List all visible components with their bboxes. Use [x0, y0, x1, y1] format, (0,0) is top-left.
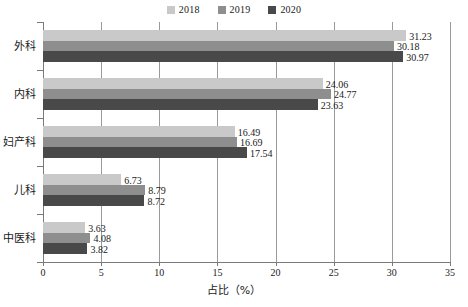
bar-value-label: 16.49	[238, 126, 261, 137]
bar-value-label: 4.08	[93, 233, 111, 244]
bar-value-label: 24.77	[334, 89, 357, 100]
bar-2018-妇产科	[43, 126, 235, 137]
x-axis-tick-label: 10	[154, 267, 164, 279]
y-axis-tick	[37, 166, 43, 167]
chart-legend: 201820192020	[0, 2, 468, 18]
bar-2018-儿科	[43, 174, 121, 185]
x-axis-tick	[276, 262, 277, 266]
bar-value-label: 6.73	[124, 174, 142, 185]
x-axis-line	[43, 262, 451, 263]
y-axis-category-label: 外科	[14, 40, 36, 53]
x-axis-tick-label: 25	[329, 267, 339, 279]
bar-2020-中医科	[43, 243, 87, 254]
y-axis-tick	[37, 214, 43, 215]
y-axis-category-label: 内科	[14, 88, 36, 101]
x-axis-tick	[334, 262, 335, 266]
bar-2019-外科	[43, 41, 394, 52]
legend-item-2020[interactable]: 2020	[268, 5, 301, 15]
bar-2018-中医科	[43, 222, 85, 233]
x-axis-tick-label: 15	[212, 267, 222, 279]
legend-item-2018[interactable]: 2018	[167, 5, 200, 15]
y-axis-tick	[37, 70, 43, 71]
bar-value-label: 8.72	[147, 195, 165, 206]
y-axis-category-label: 妇产科	[3, 136, 36, 149]
bar-value-label: 30.97	[406, 51, 429, 62]
legend-swatch-icon	[268, 6, 276, 14]
y-axis-tick	[37, 22, 43, 23]
bar-2019-妇产科	[43, 137, 237, 148]
x-axis-tick	[450, 262, 451, 266]
legend-label: 2020	[280, 5, 301, 15]
bar-value-label: 30.18	[397, 41, 420, 52]
bar-value-label: 8.79	[148, 185, 166, 196]
y-axis-tick	[37, 118, 43, 119]
legend-label: 2018	[179, 5, 200, 15]
x-axis-tick-label: 35	[445, 267, 455, 279]
bar-2019-中医科	[43, 233, 90, 244]
bar-2019-儿科	[43, 185, 145, 196]
bar-2020-儿科	[43, 195, 144, 206]
legend-label: 2019	[230, 5, 251, 15]
bar-2019-内科	[43, 89, 331, 100]
bar-value-label: 23.63	[321, 99, 344, 110]
x-axis-tick	[43, 262, 44, 266]
bar-value-label: 24.06	[326, 78, 349, 89]
x-axis-title: 占比（%）	[0, 284, 468, 297]
bar-value-label: 16.69	[240, 137, 263, 148]
x-axis-tick	[392, 262, 393, 266]
x-axis-tick-label: 20	[271, 267, 281, 279]
bar-2020-内科	[43, 99, 318, 110]
bar-2020-妇产科	[43, 147, 247, 158]
y-axis-category-label: 中医科	[3, 232, 36, 245]
bar-value-label: 3.63	[88, 222, 106, 233]
bar-2018-内科	[43, 78, 323, 89]
x-axis-tick-label: 0	[41, 267, 46, 279]
x-axis-tick	[159, 262, 160, 266]
bar-2018-外科	[43, 30, 406, 41]
y-axis-tick	[37, 262, 43, 263]
legend-swatch-icon	[167, 6, 175, 14]
x-axis-tick	[217, 262, 218, 266]
y-axis-category-label: 儿科	[14, 184, 36, 197]
bar-value-label: 3.82	[90, 243, 108, 254]
bar-chart: 201820192020 占比（%） 05101520253035外科31.23…	[0, 0, 468, 307]
legend-item-2019[interactable]: 2019	[218, 5, 251, 15]
gridline	[450, 22, 451, 262]
bar-value-label: 31.23	[409, 30, 432, 41]
x-axis-tick-label: 30	[387, 267, 397, 279]
x-axis-tick-label: 5	[99, 267, 104, 279]
bar-2020-外科	[43, 51, 403, 62]
legend-swatch-icon	[218, 6, 226, 14]
x-axis-tick	[101, 262, 102, 266]
bar-value-label: 17.54	[250, 147, 273, 158]
